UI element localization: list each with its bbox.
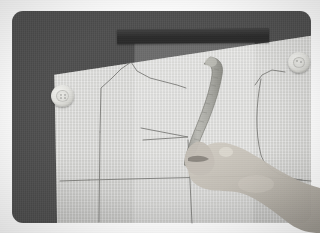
cutting-board bbox=[12, 11, 311, 223]
sewing-button-right bbox=[288, 52, 310, 73]
sewing-button-left bbox=[51, 85, 74, 107]
board-top-bar bbox=[117, 28, 269, 44]
button-hole bbox=[60, 94, 62, 96]
button-rim bbox=[293, 57, 305, 69]
top-bar-sheen bbox=[117, 28, 269, 44]
button-rim bbox=[56, 90, 69, 102]
overlay-sheet bbox=[133, 35, 254, 223]
photograph bbox=[0, 0, 320, 233]
button-hole bbox=[296, 60, 298, 62]
button-hole bbox=[300, 61, 302, 63]
button-hole bbox=[60, 97, 62, 99]
photo-caption bbox=[0, 0, 1, 1]
button-hole bbox=[64, 94, 66, 96]
button-hole bbox=[64, 97, 66, 99]
